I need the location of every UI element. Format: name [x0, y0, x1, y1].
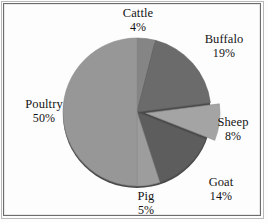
- pie-label-buffalo: Buffalo 19%: [188, 33, 260, 59]
- pie-label-buffalo-name: Buffalo: [205, 32, 244, 46]
- pie-label-poultry: Poultry 50%: [6, 98, 82, 124]
- pie-label-goat-name: Goat: [209, 175, 234, 189]
- pie-label-poultry-value: 50%: [6, 112, 82, 125]
- pie-label-pig: Pig 5%: [118, 190, 174, 216]
- pie-label-cattle-value: 4%: [102, 21, 174, 34]
- pie-label-cattle-name: Cattle: [123, 6, 153, 20]
- pie-label-cattle: Cattle 4%: [102, 7, 174, 33]
- pie-label-pig-name: Pig: [138, 189, 155, 203]
- pie-label-buffalo-value: 19%: [188, 47, 260, 60]
- pie-label-sheep: Sheep 8%: [202, 116, 264, 142]
- pie-label-sheep-value: 8%: [202, 130, 264, 143]
- pie-label-goat: Goat 14%: [190, 176, 252, 202]
- pie-label-sheep-name: Sheep: [217, 115, 248, 129]
- pie-label-poultry-name: Poultry: [25, 97, 63, 111]
- pie-label-pig-value: 5%: [118, 204, 174, 217]
- pie-label-goat-value: 14%: [190, 190, 252, 203]
- pie-chart-figure: Cattle 4% Buffalo 19% Sheep 8% Goat 14% …: [0, 0, 268, 223]
